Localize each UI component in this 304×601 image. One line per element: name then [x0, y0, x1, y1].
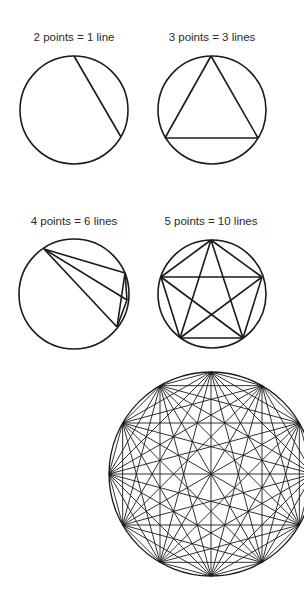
label-4-points: 4 points = 6 lines [31, 215, 118, 227]
label-5-points: 5 points = 10 lines [164, 215, 257, 227]
circle-outline [158, 240, 266, 348]
chord-line [160, 423, 299, 562]
chord-line [165, 56, 211, 138]
circle-outline [158, 56, 266, 164]
chord-line [161, 277, 243, 338]
chord-line [180, 240, 211, 338]
circle-outline [20, 56, 128, 164]
circle-3-points [158, 56, 266, 164]
chord-line [123, 423, 262, 562]
chord-line [160, 386, 299, 525]
chord-line [161, 240, 211, 277]
chord-line [109, 474, 123, 525]
chord-line [211, 240, 243, 338]
chord-line [123, 474, 304, 525]
chord-line [123, 423, 211, 576]
chord-line [123, 525, 211, 576]
chord-line [109, 386, 160, 474]
circle-4-points [19, 239, 129, 349]
circle-12-points [109, 372, 304, 576]
label-3-points: 3 points = 3 lines [169, 31, 256, 43]
chord-line [109, 474, 160, 562]
chord-line [123, 423, 304, 474]
chord-line [123, 386, 262, 525]
chord-line [74, 56, 121, 137]
chord-line [109, 423, 123, 474]
chord-line [211, 56, 258, 138]
circle-5-points [158, 240, 266, 348]
circle-2-points [20, 56, 128, 164]
chord-line [109, 474, 262, 562]
chord-line [211, 372, 262, 386]
chord-line [211, 562, 262, 576]
chord-line [160, 372, 211, 386]
label-2-points: 2 points = 1 line [34, 31, 115, 43]
chord-line [180, 277, 262, 338]
diagram-canvas [0, 0, 304, 601]
chord-line [160, 562, 211, 576]
circle-outline [19, 239, 129, 349]
